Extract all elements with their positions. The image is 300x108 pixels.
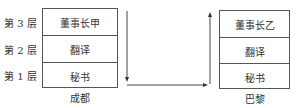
route-arrow [0,0,300,108]
